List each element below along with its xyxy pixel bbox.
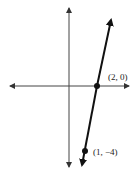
coordinate-graph: (2, 0) (1, −4) — [0, 0, 134, 183]
label-point-2-0: (2, 0) — [108, 72, 128, 82]
point-2-0 — [94, 83, 100, 89]
point-1-neg4 — [82, 148, 88, 154]
plotted-line — [82, 20, 111, 165]
label-point-1-neg4: (1, −4) — [93, 147, 118, 157]
